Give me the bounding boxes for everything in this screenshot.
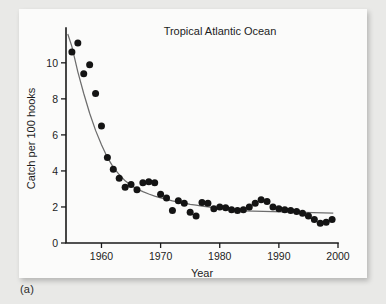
data-point: [228, 206, 235, 213]
data-point: [287, 207, 294, 214]
x-tick-label-4: 2000: [326, 250, 350, 262]
catch-per-hooks-chart: 024681019601970198019902000Tropical Atla…: [19, 9, 367, 278]
figure-card: 024681019601970198019902000Tropical Atla…: [19, 9, 367, 278]
data-point: [252, 200, 259, 207]
y-tick-label-0: 0: [52, 237, 58, 249]
data-point: [264, 198, 271, 205]
y-tick-label-2: 4: [52, 165, 58, 177]
data-point: [258, 196, 265, 203]
y-tick-label-3: 6: [52, 129, 58, 141]
data-point: [163, 194, 170, 201]
data-point: [98, 122, 105, 129]
data-point: [246, 203, 253, 210]
x-axis-title: Year: [191, 267, 214, 278]
y-tick-label-5: 10: [46, 57, 58, 69]
data-point: [116, 175, 123, 182]
data-point: [68, 49, 75, 56]
data-point: [275, 205, 282, 212]
data-point: [133, 186, 140, 193]
data-point: [145, 178, 152, 185]
data-point: [181, 200, 188, 207]
data-point: [193, 212, 200, 219]
data-point: [234, 207, 241, 214]
data-point: [317, 220, 324, 227]
data-point: [128, 181, 135, 188]
data-point: [92, 90, 99, 97]
data-point: [329, 216, 336, 223]
data-point: [311, 216, 318, 223]
data-point: [293, 208, 300, 215]
x-tick-label-0: 1960: [90, 250, 114, 262]
data-point: [210, 205, 217, 212]
data-point: [216, 203, 223, 210]
data-point: [281, 206, 288, 213]
figure-caption: (a): [20, 283, 34, 295]
data-point: [187, 209, 194, 216]
data-point: [169, 207, 176, 214]
data-point: [204, 200, 211, 207]
data-point: [139, 179, 146, 186]
data-point: [269, 203, 276, 210]
y-tick-label-1: 2: [52, 201, 58, 213]
y-axis-title: Catch per 100 hooks: [25, 87, 37, 189]
chart-title: Tropical Atlantic Ocean: [164, 25, 277, 37]
data-point: [86, 61, 93, 68]
data-point: [199, 199, 206, 206]
data-point: [80, 70, 87, 77]
data-point: [74, 40, 81, 47]
x-tick-label-3: 1990: [267, 250, 291, 262]
data-point: [151, 179, 158, 186]
data-point: [110, 166, 117, 173]
data-point: [157, 191, 164, 198]
x-tick-label-1: 1970: [149, 250, 173, 262]
data-point: [104, 154, 111, 161]
x-tick-label-2: 1980: [208, 250, 232, 262]
y-tick-label-4: 8: [52, 93, 58, 105]
data-point: [222, 204, 229, 211]
data-point: [305, 212, 312, 219]
